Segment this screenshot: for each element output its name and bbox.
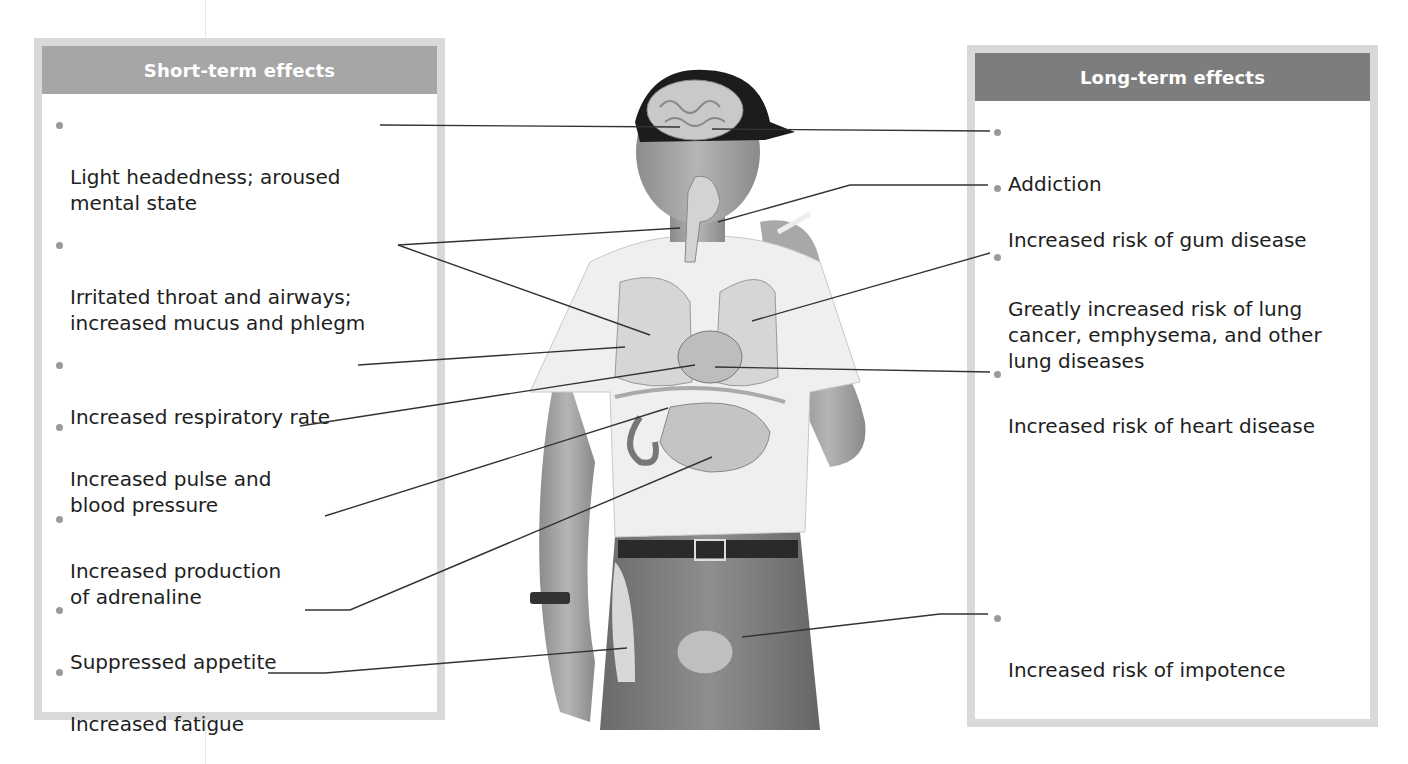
bullet-icon xyxy=(56,242,63,249)
bullet-icon xyxy=(994,129,1001,136)
long-term-effects-header: Long-term effects xyxy=(975,53,1370,101)
long-term-item-lung-disease: Greatly increased risk of lung cancer, e… xyxy=(994,244,1322,374)
wristwatch xyxy=(530,592,570,604)
brain xyxy=(647,80,743,140)
bullet-icon xyxy=(994,615,1001,622)
left-lung xyxy=(615,278,692,387)
bullet-icon xyxy=(56,669,63,676)
bullet-icon xyxy=(56,122,63,129)
bullet-icon xyxy=(994,371,1001,378)
short-term-item-light-headedness: Light headedness; aroused mental state xyxy=(56,112,341,216)
smoker-anatomy-figure xyxy=(520,62,880,730)
long-term-item-heart-disease: Increased risk of heart disease xyxy=(994,361,1315,439)
short-term-item-fatigue: Increased fatigue xyxy=(56,659,244,737)
heart xyxy=(678,331,742,383)
short-term-item-pulse-blood-pressure: Increased pulse and blood pressure xyxy=(56,414,271,518)
short-term-effects-header: Short-term effects xyxy=(42,46,437,94)
bullet-icon xyxy=(56,516,63,523)
long-term-item-gum-disease: Increased risk of gum disease xyxy=(994,175,1307,253)
reproductive-organs xyxy=(677,630,733,674)
belt xyxy=(618,540,798,558)
short-term-item-irritated-throat: Irritated throat and airways; increased … xyxy=(56,232,365,336)
bullet-icon xyxy=(56,362,63,369)
short-term-item-adrenaline: Increased production of adrenaline xyxy=(56,506,281,610)
bullet-icon xyxy=(56,424,63,431)
long-term-item-impotence: Increased risk of impotence xyxy=(994,605,1286,683)
stomach xyxy=(660,403,770,472)
bullet-icon xyxy=(994,185,1001,192)
bullet-icon xyxy=(994,254,1001,261)
bullet-icon xyxy=(56,607,63,614)
left-arm xyxy=(539,352,595,722)
